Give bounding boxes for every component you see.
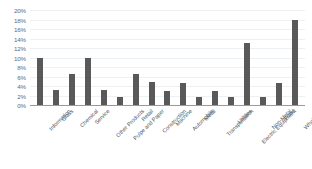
x-tick-label: Utilities [236,108,253,125]
bar-chart: 0%2%4%6%8%10%12%14%16%18%20% Information… [0,0,312,169]
bar-slot [128,10,144,105]
y-tick-label: 18% [14,16,26,23]
y-tick-label: 12% [14,45,26,52]
x-tick-label: Metal [203,108,217,122]
bar [212,91,218,105]
y-tick-label: 8% [17,64,26,71]
y-tick-label: 16% [14,26,26,33]
bar [180,83,186,105]
bar-slot [239,10,255,105]
bar [149,82,155,105]
bar-slot [112,10,128,105]
x-axis: InformationGlassChemicalServiceOther Pro… [30,106,305,169]
bar [53,90,59,105]
bar [228,97,234,105]
bar [133,74,139,105]
plot-area [30,10,305,105]
bar-slot [191,10,207,105]
y-tick-label: 0% [17,102,26,109]
bar-slot [255,10,271,105]
bar-slot [287,10,303,105]
bar [164,91,170,105]
bar [260,97,266,105]
y-tick-label: 14% [14,35,26,42]
x-tick-label: Wholesale [303,108,312,130]
y-tick-label: 6% [17,73,26,80]
y-tick-label: 2% [17,92,26,99]
bar [69,74,75,105]
bar [101,90,107,105]
bar-slot [223,10,239,105]
y-axis: 0%2%4%6%8%10%12%14%16%18%20% [0,10,28,105]
y-tick-label: 4% [17,83,26,90]
bar-slot [207,10,223,105]
bar-slot [64,10,80,105]
bar [276,83,282,105]
bar-slot [96,10,112,105]
bar-slot [175,10,191,105]
bar-slot [32,10,48,105]
bar [196,97,202,105]
bar-series [30,10,305,105]
bar-slot [271,10,287,105]
y-tick-label: 10% [14,54,26,61]
bar-slot [160,10,176,105]
bar-slot [48,10,64,105]
bar [292,20,298,106]
x-tick-label: Glass [60,108,74,122]
y-tick-label: 20% [14,7,26,14]
bar [37,58,43,106]
bar [244,43,250,105]
bar-slot [144,10,160,105]
bar-slot [80,10,96,105]
bar [117,97,123,105]
bar [85,58,91,106]
